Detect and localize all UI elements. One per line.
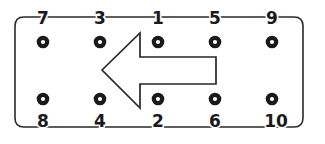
- bolt-number-2: 2: [152, 111, 164, 131]
- bolt-hole-8: [39, 95, 47, 103]
- bolt-number-6: 6: [209, 111, 221, 131]
- bolt-hole-9: [268, 38, 276, 46]
- bolt-number-1: 1: [152, 8, 164, 28]
- torque-sequence-canvas: 7 3 1 5 9 8 4 2 6 10: [0, 0, 325, 144]
- bolt-hole-3: [96, 38, 104, 46]
- bolt-number-8: 8: [37, 111, 49, 131]
- bolt-number-3: 3: [94, 8, 106, 28]
- bolt-hole-2: [154, 95, 162, 103]
- bolt-number-5: 5: [209, 8, 221, 28]
- bolt-hole-4: [96, 95, 104, 103]
- bolt-hole-7: [39, 38, 47, 46]
- bolt-number-10: 10: [264, 111, 288, 131]
- bolt-hole-5: [211, 38, 219, 46]
- bolt-hole-1: [154, 38, 162, 46]
- bolt-hole-10: [268, 95, 276, 103]
- bolt-number-4: 4: [94, 111, 106, 131]
- torque-sequence-diagram: 7 3 1 5 9 8 4 2 6 10: [0, 0, 325, 144]
- bolt-number-9: 9: [266, 8, 278, 28]
- bolt-hole-6: [211, 95, 219, 103]
- bolt-number-7: 7: [37, 8, 49, 28]
